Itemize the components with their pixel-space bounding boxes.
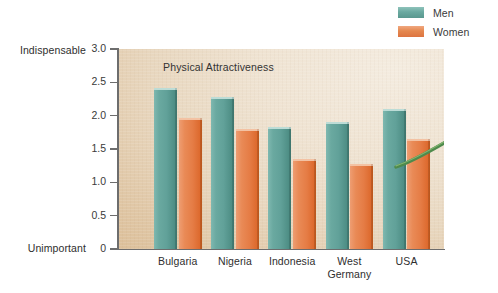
chart-figure: Men Women Indispensable Unimportant Phys… <box>0 0 498 293</box>
x-axis-label-line: Germany <box>304 268 394 281</box>
y-axis-tick-label: 3.0 <box>82 42 106 54</box>
y-axis-tick-label: 2.5 <box>82 75 106 87</box>
x-axis-label-usa: USA <box>362 255 452 268</box>
y-axis-tick-label: 0.5 <box>82 209 106 221</box>
y-axis-tick-mark <box>110 82 118 83</box>
y-axis-tick-mark <box>110 148 118 149</box>
y-axis-tick-mark <box>110 248 118 249</box>
y-axis-tick-label: 1.5 <box>82 142 106 154</box>
y-axis-tick-label: 0 <box>82 242 106 254</box>
y-axis-tick-label: 2.0 <box>82 109 106 121</box>
y-axis-ticks: 3.02.52.01.51.00.50 <box>0 0 498 293</box>
y-axis-tick-mark <box>110 48 118 49</box>
y-axis-tick-mark <box>110 215 118 216</box>
y-axis-tick-mark <box>110 182 118 183</box>
x-axis-label-line: USA <box>362 255 452 268</box>
y-axis-tick-label: 1.0 <box>82 175 106 187</box>
y-axis-tick-mark <box>110 115 118 116</box>
